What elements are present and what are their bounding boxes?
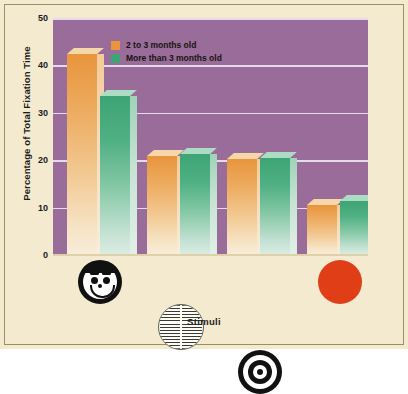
bullseye-center	[257, 369, 263, 375]
legend-swatch-green	[111, 54, 120, 63]
plot-area: 2 to 3 months old More than 3 months old	[53, 18, 368, 255]
y-tick-50: 50	[20, 13, 48, 23]
bar-face-morethan3months[interactable]	[100, 96, 130, 255]
bar-face-2to3months[interactable]	[67, 54, 97, 256]
y-axis-tick-labels: 50 40 30 20 10 0	[20, 14, 48, 258]
x-axis-baseline	[53, 254, 368, 256]
bar-front-disk	[307, 205, 337, 255]
bar-reddisk-morethan3months[interactable]	[340, 201, 368, 256]
y-tick-30: 30	[20, 108, 48, 118]
x-axis-title: Stimuli	[0, 316, 408, 327]
bar-group-red-disk	[307, 18, 368, 255]
newsprint-circle-icon	[158, 304, 204, 350]
x-axis-stimuli-icons	[53, 258, 368, 310]
red-disk-icon	[318, 260, 362, 304]
bar-side-news-g	[210, 154, 217, 255]
bar-reddisk-2to3months[interactable]	[307, 205, 337, 255]
bar-front-news	[147, 156, 177, 256]
legend-swatch-orange	[111, 41, 120, 50]
bar-bullseye-2to3months[interactable]	[227, 159, 257, 255]
bar-side-face-g	[130, 96, 137, 255]
face-brow-left	[90, 272, 99, 275]
bar-front-bulls	[227, 159, 257, 255]
bar-side-bulls-g	[290, 158, 297, 255]
face-brow-right	[102, 272, 111, 275]
bullseye-icon	[238, 350, 282, 394]
face-hair	[82, 261, 118, 273]
bar-front-face	[67, 54, 97, 256]
y-tick-40: 40	[20, 60, 48, 70]
face-eye-left	[91, 277, 98, 284]
newsprint-column-left	[160, 305, 180, 349]
bar-front-bulls-g	[260, 158, 290, 255]
legend-item-morethan3months[interactable]: More than 3 months old	[111, 53, 222, 63]
y-tick-0: 0	[20, 250, 48, 260]
bar-group-bullseye	[227, 18, 297, 255]
bar-newsprint-2to3months[interactable]	[147, 156, 177, 256]
legend-label-morethan3months: More than 3 months old	[126, 53, 222, 63]
face-eye-right	[103, 277, 110, 284]
y-tick-10: 10	[20, 203, 48, 213]
legend-label-2to3months: 2 to 3 months old	[126, 40, 196, 50]
bar-bullseye-morethan3months[interactable]	[260, 158, 290, 255]
newsprint-column-right	[182, 305, 202, 349]
y-tick-20: 20	[20, 155, 48, 165]
bar-front-news-g	[180, 154, 210, 255]
legend-item-2to3months[interactable]: 2 to 3 months old	[111, 40, 222, 50]
bar-front-disk-g	[340, 201, 368, 256]
smiling-face-icon	[78, 260, 122, 304]
bar-newsprint-morethan3months[interactable]	[180, 154, 210, 255]
bar-front-face-g	[100, 96, 130, 255]
legend: 2 to 3 months old More than 3 months old	[111, 40, 222, 63]
